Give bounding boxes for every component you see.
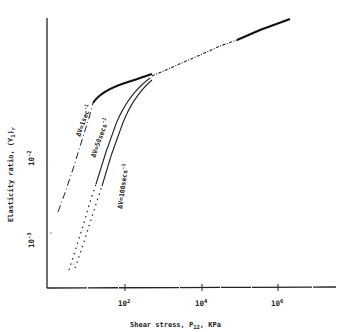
curve-50sec-dotted xyxy=(69,184,96,270)
curve-label-100sec: ΔV=100secs-1 xyxy=(114,163,130,209)
curve-merged-solid xyxy=(237,19,290,40)
stray-point xyxy=(73,263,74,264)
curve-100sec xyxy=(102,80,152,186)
x-tick-label-2: 104 xyxy=(195,298,208,308)
curve-label-50sec: ΔV=50secs-1 xyxy=(87,116,111,158)
x-axis xyxy=(47,287,336,288)
curve-100sec-dotted xyxy=(75,186,102,268)
chart: 102 104 106 Shear stress, P12, KPa Elast… xyxy=(0,0,348,332)
curve-label-1sec: ΔV=1sec-1 xyxy=(72,103,93,138)
y-tick-label-2: 10-3 xyxy=(26,232,36,248)
x-axis-title: Shear stress, P12, KPa xyxy=(130,321,221,330)
y-axis-title: Elasticity ratio, (Y1)r xyxy=(7,126,16,222)
stray-point xyxy=(50,232,51,233)
curve-merged-dotted xyxy=(152,40,237,76)
x-tick-label-1: 102 xyxy=(118,298,130,308)
x-tick-label-3: 106 xyxy=(271,298,284,308)
y-tick-label-1: 10-2 xyxy=(26,150,36,166)
